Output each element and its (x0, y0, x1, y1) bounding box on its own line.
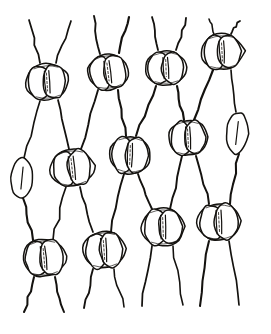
guard-cell-right (42, 64, 67, 99)
epidermis-stomata-illustration: Leaf epidermis with paired guard cells a… (0, 0, 271, 334)
figure-root: Leaf epidermis with paired guard cells a… (0, 0, 271, 334)
